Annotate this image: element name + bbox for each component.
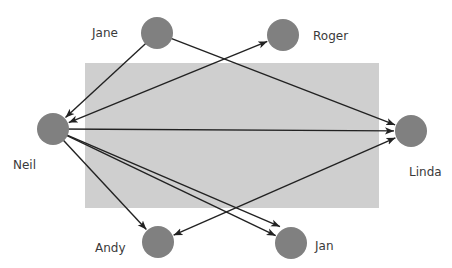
node-linda: Linda bbox=[395, 115, 442, 179]
node-circle bbox=[37, 113, 69, 145]
node-circle bbox=[267, 19, 299, 51]
node-circle bbox=[395, 115, 427, 147]
node-jane: Jane bbox=[91, 17, 173, 49]
node-label: Jan bbox=[314, 239, 334, 253]
node-circle bbox=[142, 226, 174, 258]
node-circle bbox=[275, 227, 307, 259]
node-label: Linda bbox=[409, 165, 442, 179]
network-diagram: JaneRogerNeilLindaAndyJan bbox=[0, 0, 452, 268]
shaded-region bbox=[85, 63, 379, 208]
node-circle bbox=[141, 17, 173, 49]
node-andy: Andy bbox=[95, 226, 174, 258]
node-jan: Jan bbox=[275, 227, 334, 259]
node-label: Jane bbox=[91, 26, 118, 40]
node-label: Andy bbox=[95, 241, 126, 255]
node-neil: Neil bbox=[13, 113, 69, 172]
node-label: Neil bbox=[13, 158, 36, 172]
node-roger: Roger bbox=[267, 19, 348, 51]
node-label: Roger bbox=[313, 29, 348, 43]
